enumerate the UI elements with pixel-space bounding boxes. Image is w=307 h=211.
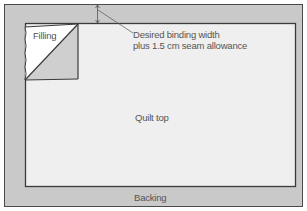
filling-label: Filling xyxy=(33,30,56,41)
annotation-label-line2: plus 1.5 cm seam allowance xyxy=(133,40,247,51)
quilt-binding-diagram: Filling Desired binding width plus 1.5 c… xyxy=(0,0,307,211)
quilt-top-label: Quilt top xyxy=(135,112,169,123)
annotation-label-line1: Desired binding width xyxy=(133,29,220,40)
backing-label: Backing xyxy=(134,192,166,203)
